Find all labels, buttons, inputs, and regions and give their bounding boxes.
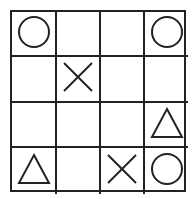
board-cell-r0-c2[interactable] bbox=[101, 12, 145, 57]
cross-icon bbox=[105, 152, 139, 190]
board-cell-r1-c1[interactable] bbox=[57, 57, 101, 103]
board-cell-r2-c2[interactable] bbox=[101, 103, 145, 148]
triangle-icon bbox=[17, 152, 51, 190]
board-cell-r1-c3[interactable] bbox=[145, 57, 188, 103]
cross-icon bbox=[61, 60, 95, 98]
board-cell-r3-c2[interactable] bbox=[101, 148, 145, 194]
circle-icon bbox=[17, 15, 51, 53]
board-cell-r2-c3[interactable] bbox=[145, 103, 188, 148]
board-cell-r0-c1[interactable] bbox=[57, 12, 101, 57]
circle-icon bbox=[150, 152, 184, 190]
board-cell-r2-c0[interactable] bbox=[12, 103, 57, 148]
board-cell-r2-c1[interactable] bbox=[57, 103, 101, 148]
game-board bbox=[10, 10, 186, 192]
board-cell-r0-c0[interactable] bbox=[12, 12, 57, 57]
board-cell-r3-c1[interactable] bbox=[57, 148, 101, 194]
board-cell-r0-c3[interactable] bbox=[145, 12, 188, 57]
board-cell-r3-c0[interactable] bbox=[12, 148, 57, 194]
board-cell-r1-c0[interactable] bbox=[12, 57, 57, 103]
circle-icon bbox=[150, 15, 184, 53]
board-cell-r3-c3[interactable] bbox=[145, 148, 188, 194]
triangle-icon bbox=[150, 106, 184, 144]
board-cell-r1-c2[interactable] bbox=[101, 57, 145, 103]
